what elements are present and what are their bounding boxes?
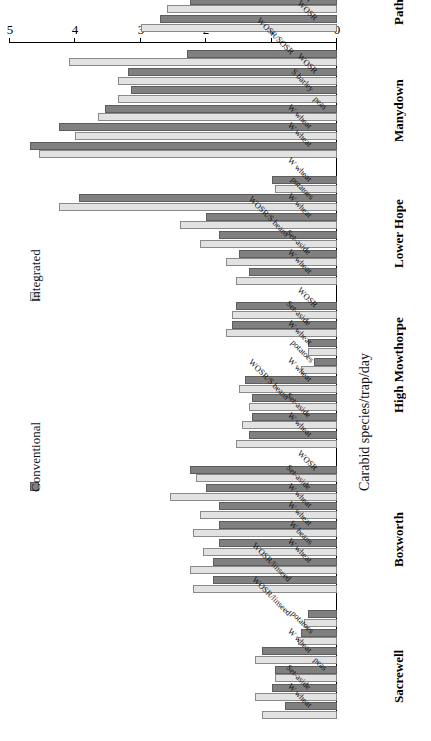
bar-conventional — [187, 50, 337, 58]
bar-conventional — [249, 431, 337, 439]
legend-label-conventional: Conventional — [28, 422, 44, 492]
chart-screenshot: 012345 Carabid species/trap/day W wheatS… — [0, 0, 431, 741]
bar-conventional — [219, 521, 337, 529]
site-label-pathhead: Pathhead — [391, 0, 407, 25]
bar-conventional — [308, 611, 337, 619]
bar-integrated — [232, 311, 337, 319]
bar-conventional — [249, 268, 337, 276]
site-label-boxworth: Boxworth — [391, 512, 407, 567]
bar-integrated — [226, 329, 337, 337]
bar-integrated — [196, 474, 337, 482]
bar-integrated — [141, 24, 337, 32]
value-tick-label-4: 4 — [62, 22, 88, 38]
bar-integrated — [118, 95, 337, 103]
bar-conventional — [219, 539, 337, 547]
bar-conventional — [190, 0, 337, 5]
site-label-sacrewell: Sacrewell — [391, 650, 407, 703]
bar-integrated — [190, 566, 337, 574]
site-label-manydown: Manydown — [391, 79, 407, 142]
value-tick-0 — [336, 38, 337, 43]
rotated-figure: 012345 Carabid species/trap/day W wheatS… — [0, 0, 431, 741]
value-tick-5 — [9, 38, 10, 43]
bar-conventional — [262, 647, 337, 655]
bar-integrated — [242, 421, 337, 429]
value-tick-4 — [74, 38, 75, 43]
bar-conventional — [206, 484, 337, 492]
bar-integrated — [193, 529, 337, 537]
bar-conventional — [30, 142, 337, 150]
bar-integrated — [262, 711, 337, 719]
bar-conventional — [219, 503, 337, 511]
site-label-high-mowthorpe: High Mowthorpe — [391, 317, 407, 413]
bar-integrated — [200, 511, 337, 519]
bar-integrated — [236, 277, 337, 285]
value-tick-2 — [205, 38, 206, 43]
bar-integrated — [180, 221, 337, 229]
site-label-lower-hope: Lower Hope — [391, 200, 407, 269]
bar-conventional — [314, 358, 337, 366]
value-tick-3 — [140, 38, 141, 43]
value-tick-label-5: 5 — [0, 22, 23, 38]
legend-label-integrated: Integrated — [28, 249, 44, 302]
bar-conventional — [213, 576, 337, 584]
plot-area — [10, 47, 337, 719]
bar-integrated — [200, 240, 337, 248]
axis-title-carabid-species: Carabid species/trap/day — [357, 353, 373, 491]
bar-integrated — [236, 440, 337, 448]
bar-integrated — [226, 258, 337, 266]
